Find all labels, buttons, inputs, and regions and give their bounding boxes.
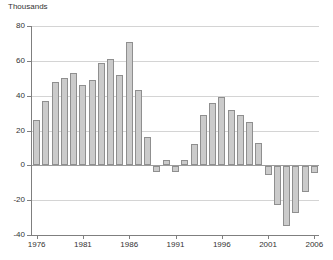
bar-1983	[98, 63, 105, 166]
x-axis-tick-1981	[83, 236, 84, 239]
y-axis-tick-80	[27, 26, 31, 27]
y-axis-tick-0	[27, 165, 31, 166]
bar-1989	[153, 166, 160, 171]
bar-1980	[70, 73, 77, 165]
bar-chart: Thousands 806040200-20-40197619811986199…	[0, 0, 333, 260]
bar-1988	[144, 137, 151, 165]
y-axis-label-40: 40	[3, 91, 25, 100]
x-axis-tick-2006	[314, 236, 315, 239]
y-axis-label-60: 60	[3, 56, 25, 65]
y-axis-tick--40	[27, 235, 31, 236]
bar-2002	[274, 166, 281, 204]
gridline-60	[32, 61, 319, 62]
bar-1998	[237, 115, 244, 166]
plot-area: 806040200-20-401976198119861991199620012…	[31, 26, 319, 236]
x-axis-tick-1996	[222, 236, 223, 239]
y-axis-label-0: 0	[3, 160, 25, 169]
bar-1992	[181, 160, 188, 165]
y-axis-label--40: -40	[3, 230, 25, 239]
bar-1986	[126, 42, 133, 166]
bar-1987	[135, 90, 142, 165]
bar-1999	[246, 122, 253, 166]
bar-2001	[265, 166, 272, 175]
x-axis-label-1976: 1976	[22, 240, 52, 249]
y-axis-label--20: -20	[3, 195, 25, 204]
bar-2004	[292, 166, 299, 213]
x-axis-label-2006: 2006	[299, 240, 329, 249]
bar-1995	[209, 103, 216, 166]
x-axis-tick-1991	[176, 236, 177, 239]
bar-2003	[283, 166, 290, 225]
bar-1984	[107, 59, 114, 165]
bar-1982	[89, 80, 96, 165]
gridline-80	[32, 26, 319, 27]
bar-1993	[191, 144, 198, 165]
y-axis-tick--20	[27, 200, 31, 201]
bar-1994	[200, 115, 207, 166]
chart-title: Thousands	[8, 2, 48, 11]
y-axis-tick-20	[27, 131, 31, 132]
bar-1977	[42, 101, 49, 165]
x-axis-label-1996: 1996	[207, 240, 237, 249]
x-axis-tick-1986	[129, 236, 130, 239]
y-axis-label-80: 80	[3, 21, 25, 30]
x-axis-tick-2001	[268, 236, 269, 239]
bar-1991	[172, 166, 179, 171]
y-axis-tick-60	[27, 61, 31, 62]
x-axis-tick-1976	[37, 236, 38, 239]
bar-2000	[255, 143, 262, 166]
bar-1979	[61, 78, 68, 165]
bar-1985	[116, 75, 123, 166]
bar-1976	[33, 120, 40, 165]
y-axis-label-20: 20	[3, 126, 25, 135]
y-axis-tick-40	[27, 96, 31, 97]
bar-1997	[228, 110, 235, 166]
x-axis-label-1981: 1981	[68, 240, 98, 249]
bar-2005	[302, 166, 309, 192]
x-axis-label-2001: 2001	[253, 240, 283, 249]
bar-1996	[218, 97, 225, 165]
bar-2006	[311, 166, 318, 173]
x-axis-label-1986: 1986	[114, 240, 144, 249]
x-axis-label-1991: 1991	[161, 240, 191, 249]
bar-1981	[79, 85, 86, 165]
bar-1978	[52, 82, 59, 166]
bar-1990	[163, 160, 170, 165]
